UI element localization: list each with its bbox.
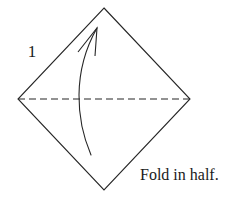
step-number-label: 1: [28, 42, 37, 61]
origami-figure: 1 Fold in half.: [0, 0, 246, 199]
origami-diagram-canvas: 1 Fold in half.: [0, 0, 246, 199]
instruction-caption: Fold in half.: [140, 166, 219, 183]
